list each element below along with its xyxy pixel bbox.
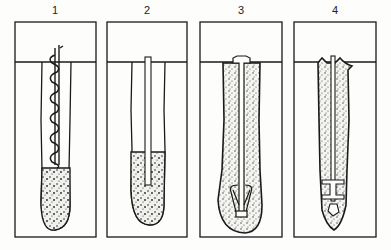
panel-4: [294, 22, 376, 237]
diagram-canvas: [0, 0, 391, 250]
panel-2: [107, 22, 187, 237]
rod-icon: [145, 57, 151, 185]
panel-1: [15, 22, 96, 237]
auger-icon: [50, 45, 63, 168]
fill-material: [41, 168, 70, 230]
panel-3: [200, 22, 282, 237]
